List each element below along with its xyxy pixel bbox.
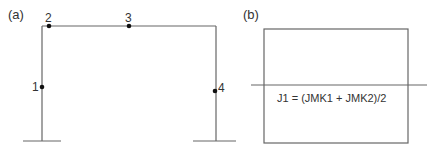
point-2-label: 2: [45, 11, 52, 25]
diagram-canvas: (a) 1 2 3 4 (b) J1 = (JMK1 + JMK2)/2: [0, 0, 435, 151]
panel-b-label: (b): [243, 7, 259, 22]
frame-points: [40, 24, 218, 94]
point-1-marker: [40, 85, 45, 90]
formula-text: J1 = (JMK1 + JMK2)/2: [277, 92, 386, 104]
portal-frame: [23, 26, 236, 141]
point-4-label: 4: [218, 81, 225, 95]
point-3-label: 3: [125, 11, 132, 25]
point-4-marker: [213, 89, 218, 94]
element-box: [264, 29, 408, 143]
panel-a-label: (a): [8, 7, 24, 22]
point-1-label: 1: [32, 80, 39, 94]
